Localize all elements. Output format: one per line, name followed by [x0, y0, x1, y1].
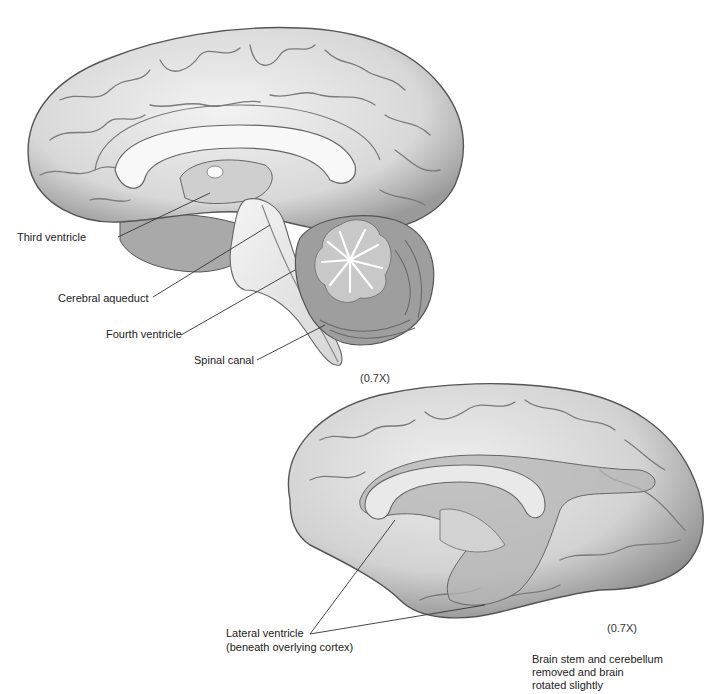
label-cerebral-aqueduct: Cerebral aqueduct — [58, 292, 149, 305]
caption-line-2: removed and brain — [532, 666, 624, 679]
top-magnification: (0.7X) — [360, 372, 390, 384]
label-lateral-ventricle-note: (beneath overlying cortex) — [226, 641, 353, 654]
label-third-ventricle: Third ventricle — [17, 231, 86, 244]
bottom-brain-medial: (0.7X) — [288, 384, 703, 634]
third-ventricle-region — [180, 160, 272, 204]
label-fourth-ventricle: Fourth ventricle — [106, 328, 182, 341]
leader-lateral-ventricle-b — [310, 605, 485, 634]
caption-line-3: rotated slightly — [532, 679, 603, 692]
top-brain-sagittal: (0.7X) — [28, 28, 463, 384]
brain-illustration: (0.7X) (0.7X) — [0, 0, 719, 694]
label-lateral-ventricle: Lateral ventricle — [226, 627, 304, 640]
bottom-magnification: (0.7X) — [607, 622, 637, 634]
label-spinal-canal: Spinal canal — [194, 354, 254, 367]
caption-line-1: Brain stem and cerebellum — [532, 653, 663, 666]
